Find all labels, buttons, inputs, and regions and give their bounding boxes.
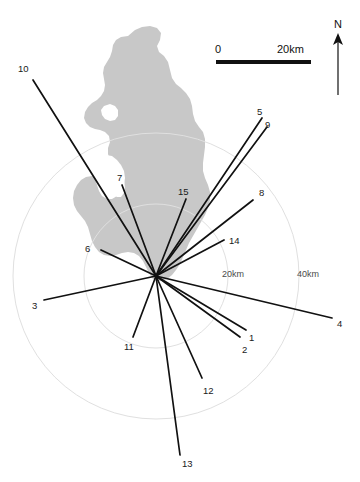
map-canvas (0, 0, 360, 482)
spoke-label-5: 5 (257, 107, 262, 117)
spoke-line-11 (133, 276, 156, 337)
radial-distance-map-figure: 20km 40km 0 20km N 1 2 3 4 5 6 7 8 9 10 … (0, 0, 360, 482)
spoke-label-1: 1 (249, 333, 254, 343)
spoke-line-3 (44, 276, 156, 300)
spoke-label-7: 7 (117, 173, 122, 183)
scale-bar (216, 60, 311, 64)
scale-bar-group (216, 60, 311, 64)
spoke-label-12: 12 (203, 386, 214, 396)
spoke-line-1 (156, 276, 246, 330)
spoke-label-4: 4 (337, 319, 342, 329)
spoke-line-4 (156, 276, 332, 318)
spoke-label-14: 14 (229, 236, 240, 246)
spoke-label-6: 6 (85, 244, 90, 254)
spoke-label-10: 10 (18, 64, 29, 74)
spoke-label-2: 2 (242, 345, 247, 355)
landmass-group (73, 26, 210, 281)
spoke-label-15: 15 (178, 187, 189, 197)
spoke-label-9: 9 (265, 120, 270, 130)
ring-label-40km: 40km (297, 270, 319, 279)
landmass-shape (73, 26, 210, 281)
scale-bar-start-label: 0 (215, 44, 221, 55)
scale-bar-end-label: 20km (277, 44, 304, 55)
north-arrow-group (333, 33, 343, 95)
spoke-label-11: 11 (124, 342, 134, 352)
spoke-label-3: 3 (32, 301, 37, 311)
north-arrow-label: N (334, 19, 342, 30)
ring-label-20km: 20km (222, 270, 244, 279)
spoke-label-13: 13 (182, 459, 193, 469)
spoke-label-8: 8 (259, 188, 264, 198)
